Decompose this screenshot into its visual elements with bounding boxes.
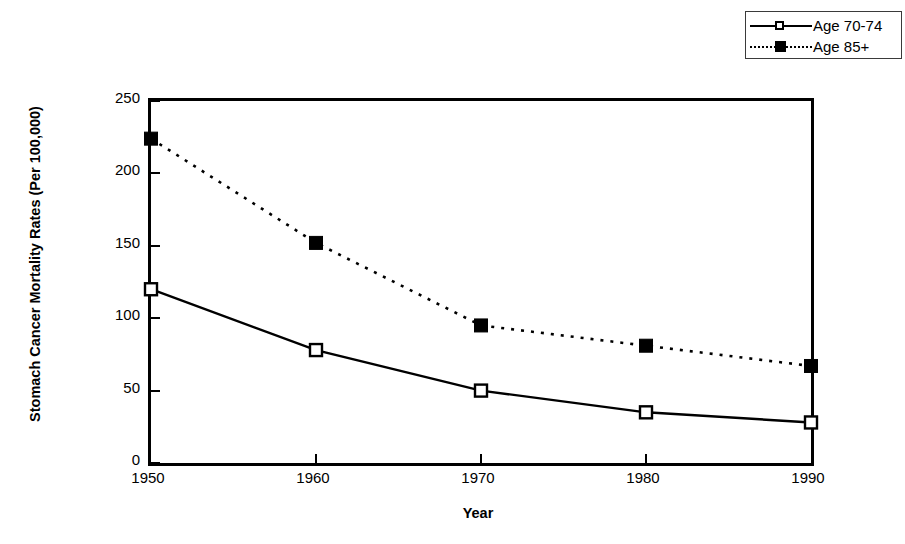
y-axis-tick <box>151 317 160 319</box>
data-point-marker <box>310 344 322 356</box>
legend-item-age-70-74: Age 70-74 <box>750 15 897 36</box>
data-point-marker <box>640 339 653 352</box>
x-axis-tick-label: 1950 <box>108 470 188 485</box>
data-point-marker <box>805 359 818 372</box>
y-axis-tick <box>151 390 160 392</box>
x-axis-tick-label: 1990 <box>768 470 848 485</box>
x-axis-tick <box>480 454 482 463</box>
legend-item-age-85-plus: Age 85+ <box>750 36 897 57</box>
data-point-marker <box>310 236 323 249</box>
y-axis-tick-label: 250 <box>80 90 140 105</box>
y-axis-tick-label: 150 <box>80 235 140 250</box>
data-point-marker <box>145 132 158 145</box>
data-point-marker <box>640 406 652 418</box>
y-axis-tick-label: 50 <box>80 380 140 395</box>
y-axis-title: Stomach Cancer Mortality Rates (Per 100,… <box>27 29 43 499</box>
x-axis-tick <box>315 454 317 463</box>
x-axis-title: Year <box>148 505 808 521</box>
chart-legend: Age 70-74 Age 85+ <box>745 11 902 59</box>
y-axis-tick <box>151 462 160 464</box>
legend-swatch-solid-open-square <box>750 18 812 34</box>
y-axis-tick-label: 0 <box>80 452 140 467</box>
data-point-marker <box>475 319 488 332</box>
x-axis-tick <box>645 454 647 463</box>
y-axis-tick <box>151 245 160 247</box>
series-line-1 <box>151 289 811 422</box>
plot-area <box>148 98 814 466</box>
data-point-marker <box>805 416 817 428</box>
y-axis-tick <box>151 172 160 174</box>
data-point-marker <box>145 283 157 295</box>
legend-label-age-85-plus: Age 85+ <box>812 39 869 54</box>
legend-label-age-70-74: Age 70-74 <box>812 18 882 33</box>
y-axis-tick-label: 100 <box>80 307 140 322</box>
y-axis-tick-label: 200 <box>80 162 140 177</box>
x-axis-tick-label: 1970 <box>438 470 518 485</box>
open-square-marker-icon <box>775 21 784 30</box>
filled-square-marker-icon <box>775 41 786 52</box>
x-axis-tick-label: 1980 <box>603 470 683 485</box>
plot-inner <box>151 101 811 463</box>
legend-swatch-dotted-filled-square <box>750 39 812 55</box>
y-axis-tick <box>151 100 160 102</box>
x-axis-tick-label: 1960 <box>273 470 353 485</box>
data-point-marker <box>475 385 487 397</box>
series-layer <box>151 101 811 463</box>
